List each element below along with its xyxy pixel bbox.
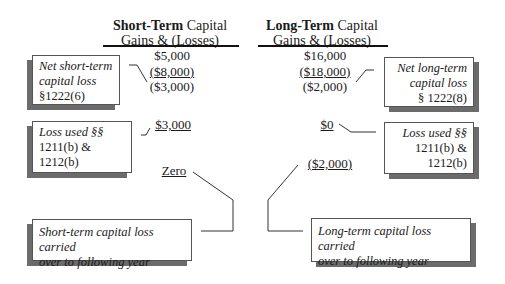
long-term-gains: $16,000 [290, 48, 360, 63]
long-term-net-box-line2: capital loss [391, 76, 467, 91]
short-term-losses: ($8,000) [140, 64, 204, 79]
short-term-used-box: Loss used §§ 1211(b) & 1212(b) [32, 121, 132, 173]
short-term-header-bold: Short-Term [113, 18, 183, 33]
short-term-carryover-box-line1: Short-term capital loss carried [39, 225, 185, 255]
short-term-carryover-box-line2: over to following year [39, 255, 185, 270]
long-term-carryover: ($2,000) [302, 156, 358, 171]
long-term-carryover-box: Long-term capital loss carried over to f… [311, 218, 471, 262]
short-term-gains: $5,000 [140, 48, 204, 63]
long-term-carryover-box-line1: Long-term capital loss carried [318, 224, 464, 254]
long-term-used-box-line2: 1211(b) & [391, 141, 467, 156]
long-term-used: $0 [315, 117, 339, 132]
long-term-losses: ($18,000) [290, 64, 360, 79]
short-term-net-box-line3: §1222(6) [39, 89, 113, 104]
short-term-net: ($3,000) [140, 79, 204, 94]
long-term-net-box: Net long-term capital loss § 1222(8) [384, 57, 474, 107]
long-term-net: ($2,000) [290, 79, 360, 94]
long-term-header-bold: Long-Term [266, 18, 334, 33]
short-term-header: Short-Term Capital Gains & (Losses) [104, 18, 236, 48]
long-term-carryover-box-line2: over to following year [318, 254, 464, 269]
short-term-net-box-line1: Net short-term [39, 59, 113, 74]
long-term-net-box-line3: § 1222(8) [391, 91, 467, 106]
short-term-used-box-line1: Loss used §§ [39, 125, 125, 140]
long-term-header-rule [258, 45, 388, 47]
short-term-net-box: Net short-term capital loss §1222(6) [32, 55, 120, 105]
short-term-header-rest: Capital [183, 18, 227, 33]
short-term-used-box-line2: 1211(b) & [39, 140, 125, 155]
long-term-used-box-line1: Loss used §§ [391, 126, 467, 141]
short-term-net-box-line2: capital loss [39, 74, 113, 89]
short-term-used: $3,000 [150, 117, 196, 132]
short-term-carryover: Zero [156, 163, 192, 178]
long-term-used-box: Loss used §§ 1211(b) & 1212(b) [384, 122, 474, 174]
long-term-used-box-line3: 1212(b) [391, 156, 467, 171]
long-term-header-rest: Capital [334, 18, 378, 33]
short-term-carryover-box: Short-term capital loss carried over to … [32, 219, 192, 261]
short-term-header-rule [103, 45, 239, 47]
short-term-used-box-line3: 1212(b) [39, 155, 125, 170]
long-term-header: Long-Term Capital Gains & (Losses) [254, 18, 390, 48]
long-term-net-box-line1: Net long-term [391, 61, 467, 76]
